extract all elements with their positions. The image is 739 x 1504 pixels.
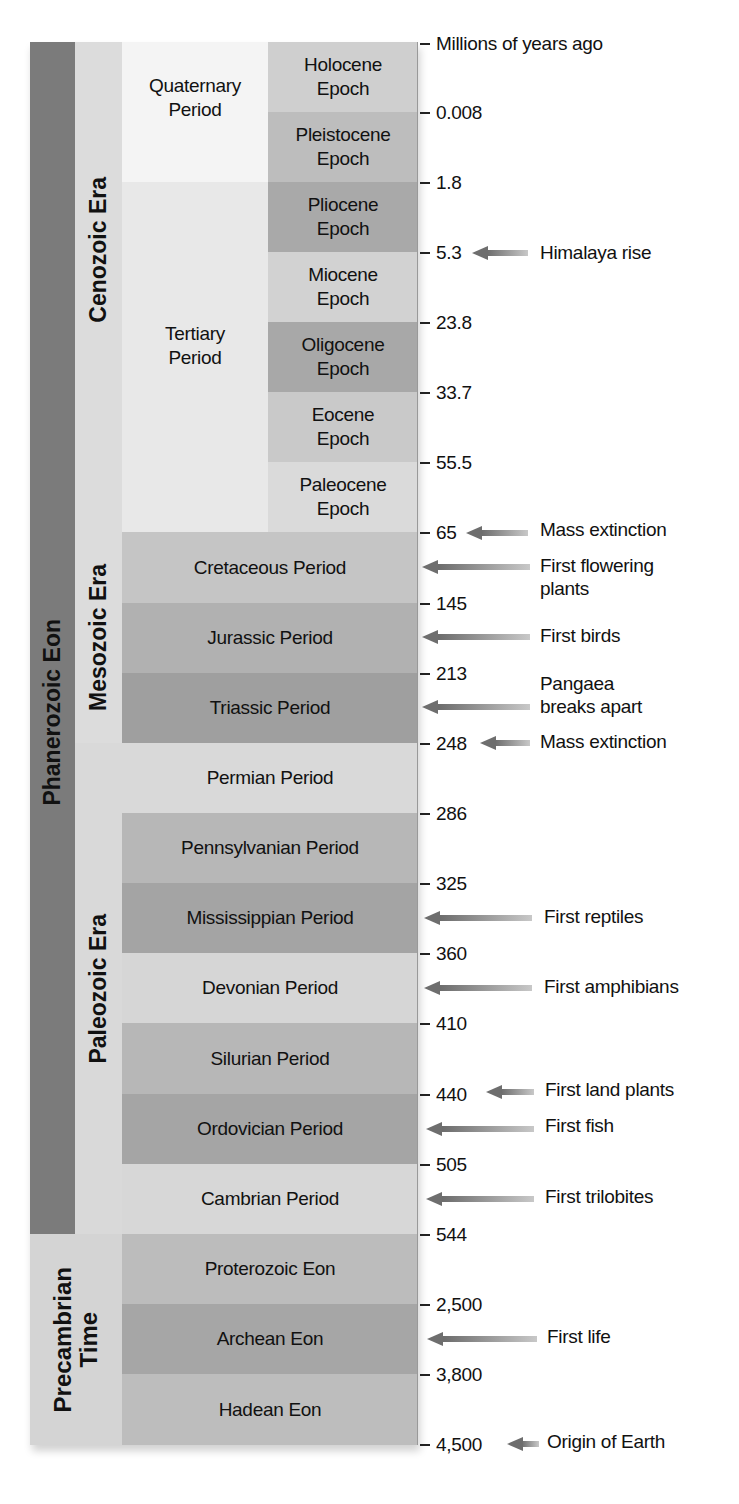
pennsylvanian-period-cell: Pennsylvanian Period [122, 813, 418, 883]
axis-tick-label: 5.3 [436, 242, 462, 264]
axis-tick-label: 2,500 [436, 1294, 482, 1316]
axis-tick-label: 23.8 [436, 312, 472, 334]
axis-tick [420, 1444, 430, 1446]
holocene-epoch-cell: HoloceneEpoch [268, 42, 418, 112]
axis-tick [420, 182, 430, 184]
event-label: First life [547, 1325, 611, 1348]
left-arrow-icon [486, 1085, 534, 1099]
paleocene-epoch-cell: PaleoceneEpoch [268, 462, 418, 532]
event-label: Himalaya rise [540, 241, 651, 264]
paleozoic-era-label: Paleozoic Era [86, 914, 111, 1064]
axis-tick-label: 65 [436, 522, 457, 544]
tertiary-period-cell: Tertiary Period [122, 182, 268, 532]
left-arrow-icon [507, 1437, 539, 1451]
axis-tick-label: 248 [436, 733, 467, 755]
precambrian-time-block: Precambrian Time [30, 1234, 122, 1445]
axis-tick-label: 505 [436, 1154, 467, 1176]
axis-tick [420, 1234, 430, 1236]
left-arrow-icon [422, 630, 530, 644]
hadean-eon-cell: Hadean Eon [122, 1374, 418, 1445]
proterozoic-eon-cell: Proterozoic Eon [122, 1234, 418, 1304]
mesozoic-era-label: Mesozoic Era [86, 564, 111, 711]
event-label: First fish [545, 1114, 614, 1137]
left-arrow-icon [424, 911, 532, 925]
devonian-period-cell: Devonian Period [122, 953, 418, 1023]
pleistocene-epoch-cell: PleistoceneEpoch [268, 112, 418, 182]
left-arrow-icon [426, 1122, 534, 1136]
axis-tick-label: 55.5 [436, 452, 472, 474]
jurassic-period-cell: Jurassic Period [122, 603, 418, 673]
silurian-period-cell: Silurian Period [122, 1023, 418, 1094]
axis-tick-label: 3,800 [436, 1364, 482, 1386]
axis-tick [420, 532, 430, 534]
axis-tick [420, 322, 430, 324]
pliocene-epoch-cell: PlioceneEpoch [268, 182, 418, 252]
axis-tick-label: 544 [436, 1224, 467, 1246]
axis-tick [420, 112, 430, 114]
axis-tick [420, 673, 430, 675]
axis-tick-label: 286 [436, 803, 467, 825]
triassic-period-cell: Triassic Period [122, 673, 418, 743]
cretaceous-period-cell: Cretaceous Period [122, 532, 418, 603]
axis-tick [420, 1164, 430, 1166]
left-arrow-icon [480, 736, 530, 750]
left-arrow-icon [424, 981, 532, 995]
axis-tick [420, 1094, 430, 1096]
mesozoic-era-cell: Mesozoic Era [75, 532, 122, 743]
ordovician-period-cell: Ordovician Period [122, 1094, 418, 1164]
permian-period-cell: Permian Period [75, 743, 418, 813]
axis-tick-label: 4,500 [436, 1434, 482, 1456]
geologic-time-scale-chart: Phanerozoic Eon Precambrian Time Cenozoi… [30, 42, 418, 1445]
oligocene-epoch-cell: OligoceneEpoch [268, 322, 418, 392]
axis-tick [420, 1304, 430, 1306]
cambrian-period-cell: Cambrian Period [122, 1164, 418, 1234]
axis-tick-top [420, 43, 430, 45]
axis-tick [420, 1023, 430, 1025]
cenozoic-era-cell: Cenozoic Era [75, 42, 122, 532]
quaternary-period-cell: Quaternary Period [122, 42, 268, 182]
event-label: Pangaea breaks apart [540, 672, 642, 718]
precambrian-time-label: Precambrian Time [50, 1267, 103, 1412]
axis-tick-label: 145 [436, 593, 467, 615]
left-arrow-icon [472, 246, 528, 260]
axis-tick-label: 1.8 [436, 172, 462, 194]
axis-tick [420, 462, 430, 464]
event-label: First flowering plants [540, 554, 654, 600]
phanerozoic-eon-label: Phanerozoic Eon [40, 619, 65, 806]
axis-tick [420, 252, 430, 254]
axis-tick-label: 360 [436, 943, 467, 965]
left-arrow-icon [427, 1332, 537, 1346]
left-arrow-icon [426, 1192, 534, 1206]
archean-eon-cell: Archean Eon [122, 1304, 418, 1374]
event-label: Mass extinction [540, 518, 666, 541]
axis-tick [420, 953, 430, 955]
event-label: First amphibians [544, 975, 679, 998]
event-label: First birds [540, 624, 620, 647]
axis-tick [420, 813, 430, 815]
axis-tick [420, 603, 430, 605]
axis-title: Millions of years ago [436, 33, 603, 55]
event-label: Origin of Earth [547, 1430, 665, 1453]
cenozoic-era-label: Cenozoic Era [86, 177, 111, 323]
axis-tick-label: 33.7 [436, 382, 472, 404]
left-arrow-icon [466, 526, 528, 540]
axis-tick [420, 1374, 430, 1376]
miocene-epoch-cell: MioceneEpoch [268, 252, 418, 322]
axis-tick-label: 325 [436, 873, 467, 895]
axis-tick-label: 440 [436, 1084, 467, 1106]
paleozoic-era-cell: Paleozoic Era [75, 743, 122, 1234]
axis-tick [420, 392, 430, 394]
left-arrow-icon [422, 560, 530, 574]
axis-tick [420, 883, 430, 885]
event-label: Mass extinction [540, 730, 666, 753]
mississippian-period-cell: Mississippian Period [122, 883, 418, 953]
axis-tick [420, 743, 430, 745]
event-label: First reptiles [544, 905, 643, 928]
axis-tick-label: 410 [436, 1013, 467, 1035]
event-label: First land plants [545, 1078, 674, 1101]
left-arrow-icon [422, 700, 530, 714]
axis-tick-label: 213 [436, 663, 467, 685]
event-label: First trilobites [545, 1185, 653, 1208]
axis-tick-label: 0.008 [436, 102, 482, 124]
eocene-epoch-cell: EoceneEpoch [268, 392, 418, 462]
